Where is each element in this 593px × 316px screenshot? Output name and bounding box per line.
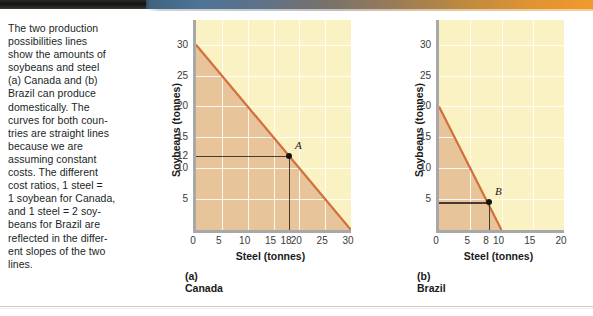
y-tick-label: 5 (166, 193, 188, 204)
guide-line-horizontal (196, 156, 289, 157)
x-tick-label: 15 (520, 235, 540, 246)
guide-line-vertical (289, 156, 290, 230)
x-tick-label: 20 (286, 235, 306, 246)
y-tick-label: 20 (166, 100, 188, 111)
data-point-a[interactable] (286, 153, 292, 159)
canada-figure-label: (a) Canada (185, 270, 223, 294)
figure-caption: The two production possibilities lines s… (8, 22, 148, 271)
y-tick-label: 10 (409, 162, 431, 173)
y-tick-label: 10 (166, 162, 188, 173)
footer-divider-soft (0, 308, 593, 309)
y-tick-label: 30 (166, 39, 188, 50)
x-tick-label: 10 (489, 235, 509, 246)
x-tick-label: 30 (338, 235, 358, 246)
y-tick-label: 15 (166, 131, 188, 142)
data-point-label-b: B (495, 185, 502, 197)
y-tick-label: 15 (409, 131, 431, 142)
y-tick-label: 30 (409, 39, 431, 50)
footer-divider (0, 306, 593, 307)
guide-line-vertical (489, 202, 490, 230)
guide-line-horizontal (439, 202, 489, 203)
x-tick-label: 5 (457, 235, 477, 246)
canada-ppf-line (196, 20, 351, 230)
brazil-x-axis-title: Steel (tonnes) (436, 250, 561, 262)
y-tick-label: 12 (166, 150, 188, 161)
x-tick-label: 0 (426, 235, 446, 246)
x-tick-label: 0 (183, 235, 203, 246)
data-point-label-a: A (295, 139, 302, 151)
y-tick-label: 25 (166, 70, 188, 81)
brazil-plot-area: B (436, 20, 564, 233)
header-dark-tab (0, 0, 146, 9)
y-tick-label: 25 (409, 70, 431, 81)
y-tick-label: 20 (409, 100, 431, 111)
x-tick-label: 25 (312, 235, 332, 246)
header-highlight-line (0, 9, 593, 11)
x-tick-label: 5 (209, 235, 229, 246)
brazil-ppf-line (439, 20, 564, 230)
x-tick-label: 10 (235, 235, 255, 246)
canada-plot-area: A (193, 20, 351, 233)
canada-x-axis-title: Steel (tonnes) (193, 250, 348, 262)
y-tick-label: 5 (409, 193, 431, 204)
x-tick-label: 20 (551, 235, 571, 246)
brazil-figure-label: (b) Brazil (417, 270, 446, 294)
figure-root: The two production possibilities lines s… (0, 0, 593, 316)
